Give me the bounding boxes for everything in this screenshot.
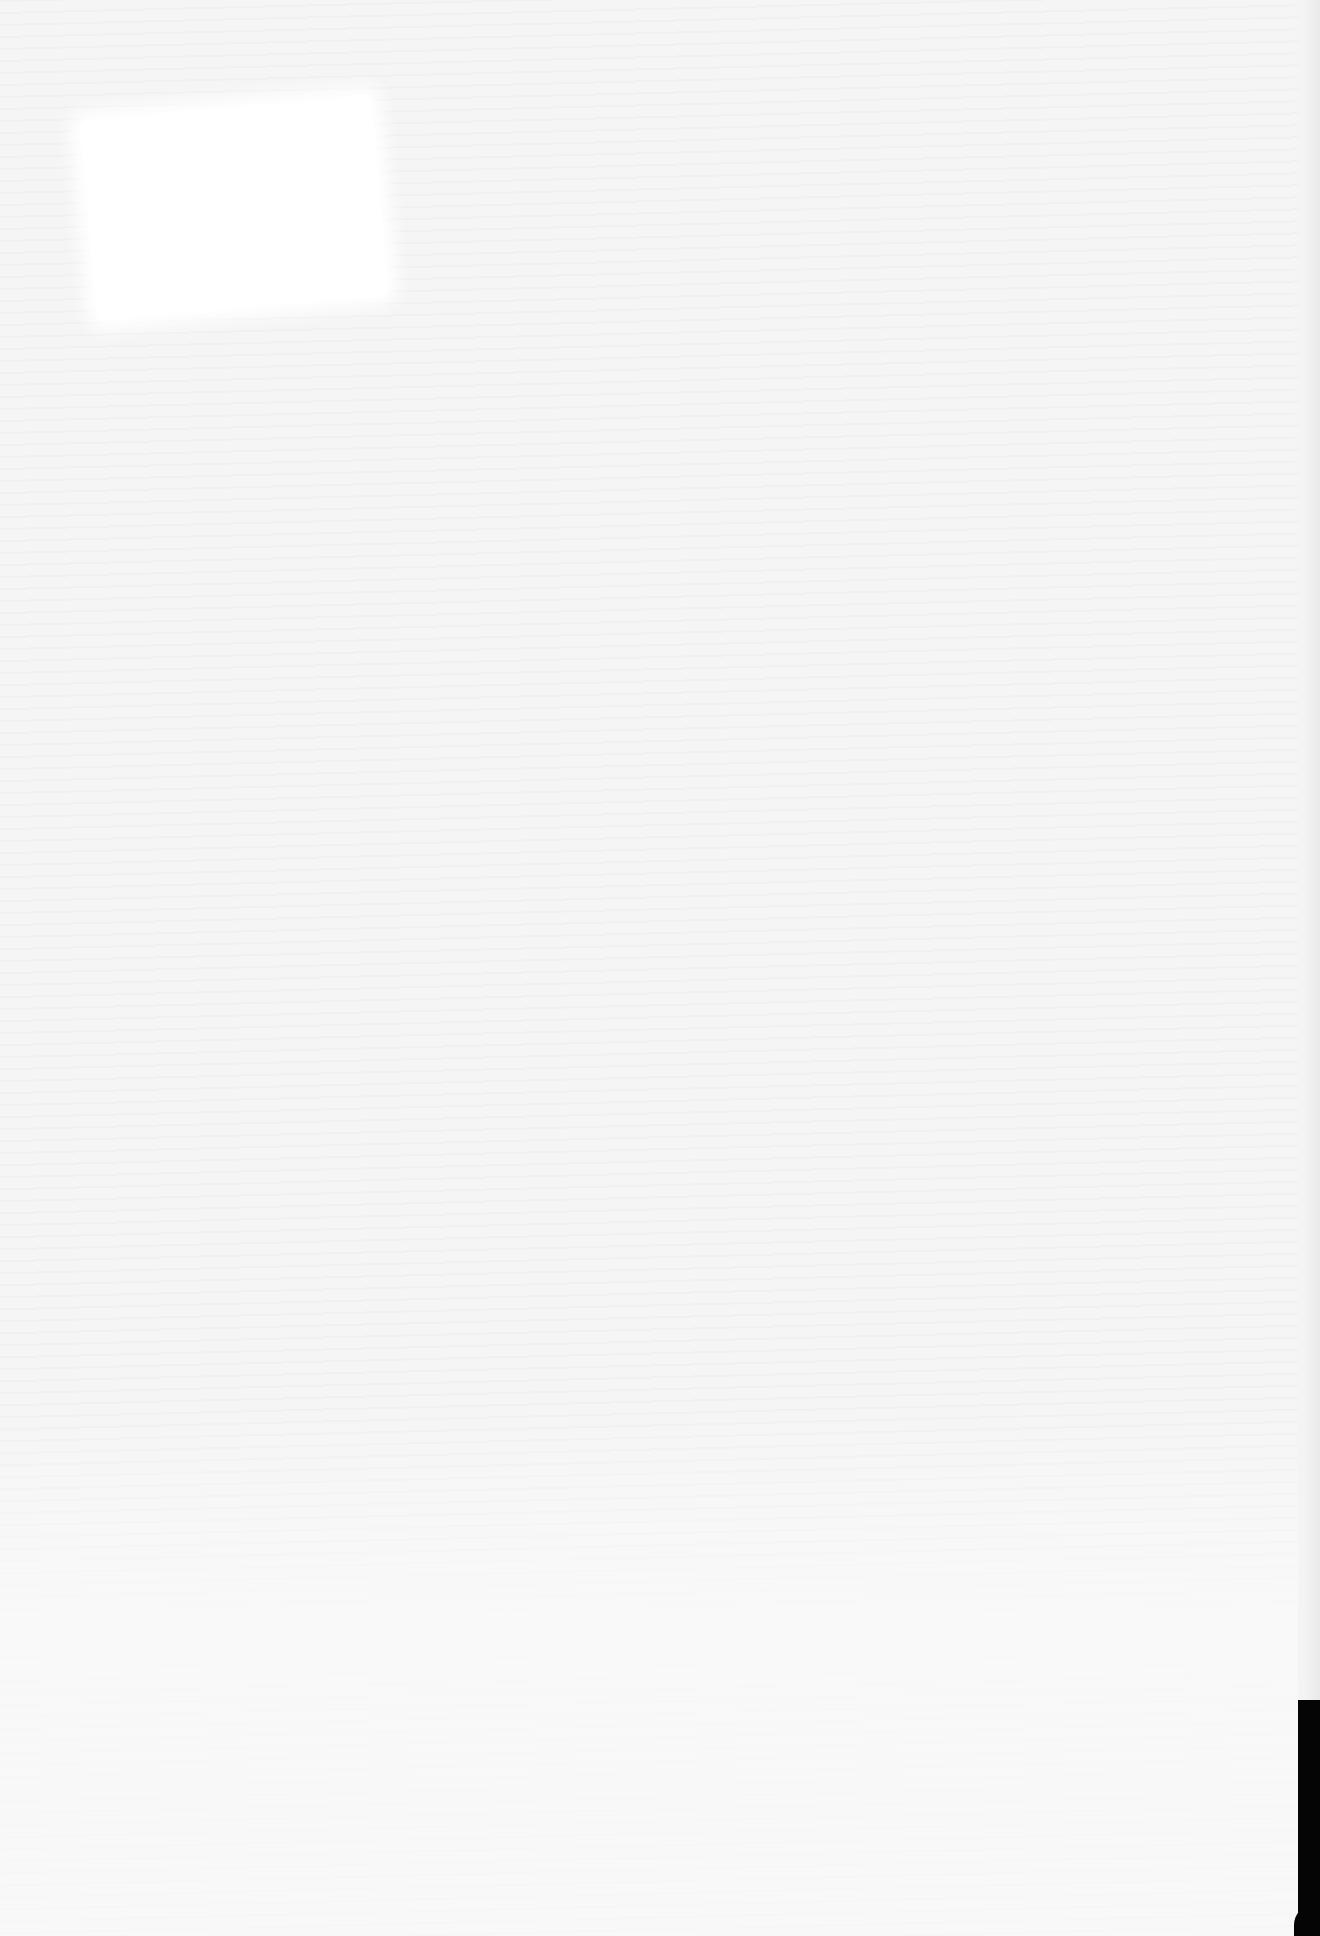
blank-patch (80, 96, 388, 321)
bleed-through-fade (0, 1400, 1298, 1936)
page-edge-shadow (1304, 0, 1320, 1936)
scanned-page (0, 0, 1298, 1936)
scanner-edge (1298, 1700, 1320, 1936)
